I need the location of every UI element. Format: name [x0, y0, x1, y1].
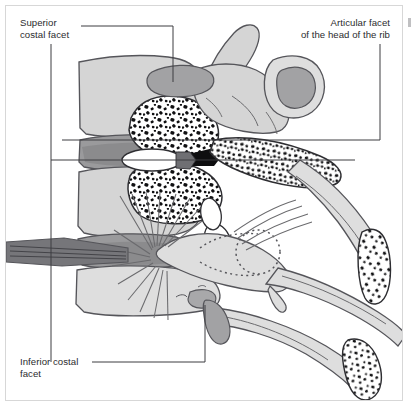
label-superior-costal-facet: Superior costal facet — [20, 17, 69, 41]
anatomy-illustration — [0, 0, 412, 414]
rib-lower-cut-end — [343, 339, 382, 400]
rib-upper-cut-end — [358, 229, 390, 304]
rib-lower-articular-strip — [203, 300, 230, 344]
anatomical-figure: Superior costal facet Articular facet of… — [0, 0, 412, 414]
label-inferior-costal-facet: Inferior costal facet — [20, 356, 78, 380]
label-articular-facet-head-of-rib: Articular facet of the head of the rib — [301, 17, 390, 41]
page-edge-mark — [408, 18, 411, 27]
superior-costal-facet — [147, 65, 214, 97]
transverse-costal-facet — [277, 67, 316, 108]
